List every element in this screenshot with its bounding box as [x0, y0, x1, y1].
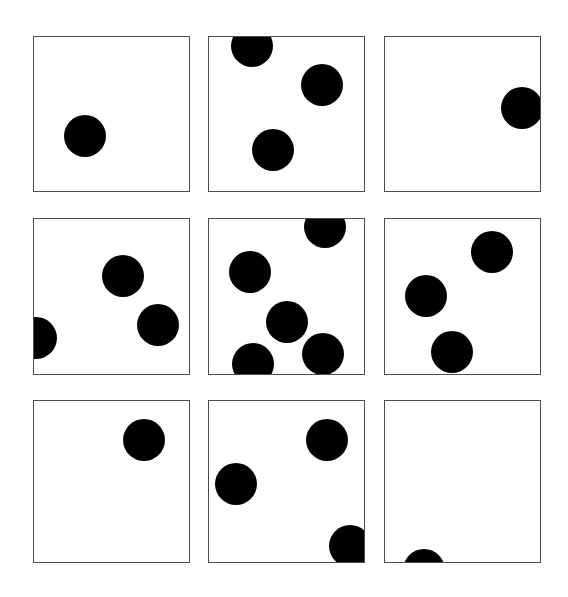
- circle-marker: [123, 419, 165, 461]
- panel-bottom-middle: [208, 400, 365, 563]
- circle-marker: [471, 231, 513, 273]
- panel-bottom-right: [384, 400, 541, 563]
- circle-marker: [64, 115, 106, 157]
- panel-middle-left: [33, 218, 190, 375]
- panel-top-middle: [208, 36, 365, 192]
- circle-marker: [306, 419, 348, 461]
- panel-bottom-left: [33, 400, 190, 563]
- figure-root: [0, 0, 568, 597]
- circle-marker: [252, 129, 294, 171]
- circle-marker: [229, 251, 271, 293]
- circle-marker: [137, 304, 179, 346]
- circle-marker: [102, 255, 144, 297]
- circle-marker: [215, 463, 257, 505]
- circle-marker: [266, 301, 308, 343]
- panel-top-right: [384, 36, 541, 192]
- circle-marker: [431, 331, 473, 373]
- circle-marker: [302, 333, 344, 375]
- circle-marker: [403, 549, 445, 563]
- circle-marker: [304, 218, 346, 248]
- panel-middle-right: [384, 218, 541, 375]
- panel-top-left: [33, 36, 190, 192]
- circle-marker: [501, 87, 541, 129]
- panel-middle-center: [208, 218, 365, 375]
- circle-marker: [329, 525, 365, 563]
- circle-marker: [301, 64, 343, 106]
- circle-marker: [33, 317, 57, 359]
- circle-marker: [231, 36, 273, 67]
- circle-marker: [405, 275, 447, 317]
- circle-marker: [232, 343, 274, 375]
